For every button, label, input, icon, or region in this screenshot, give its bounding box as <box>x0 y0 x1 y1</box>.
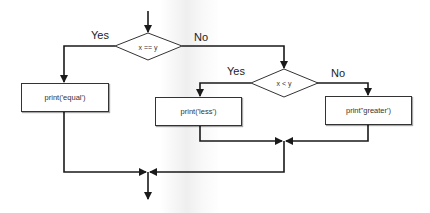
yes-branch-less <box>200 83 251 96</box>
yes-branch-equal <box>64 46 115 82</box>
yes-label-d2: Yes <box>227 65 245 77</box>
process-box-greater: print"greater') <box>325 96 412 125</box>
less-to-merge <box>200 125 282 141</box>
no-label-d1: No <box>194 31 208 43</box>
process-text-greater: print"greater') <box>346 106 391 115</box>
greater-to-merge <box>286 124 368 141</box>
inner-merge-to-outer <box>150 141 284 172</box>
process-text-less: print('less') <box>181 107 217 116</box>
no-label-d2: No <box>331 67 345 79</box>
no-branch-greater <box>317 83 368 95</box>
process-box-equal: print('equal') <box>21 83 109 112</box>
decision-text-equal: x == y <box>138 44 157 51</box>
yes-label-d1: Yes <box>91 29 109 41</box>
process-text-equal: print('equal') <box>45 93 86 102</box>
equal-to-merge <box>64 111 146 172</box>
decision-text-less: x < y <box>277 80 292 87</box>
process-box-less: print('less') <box>155 97 242 126</box>
